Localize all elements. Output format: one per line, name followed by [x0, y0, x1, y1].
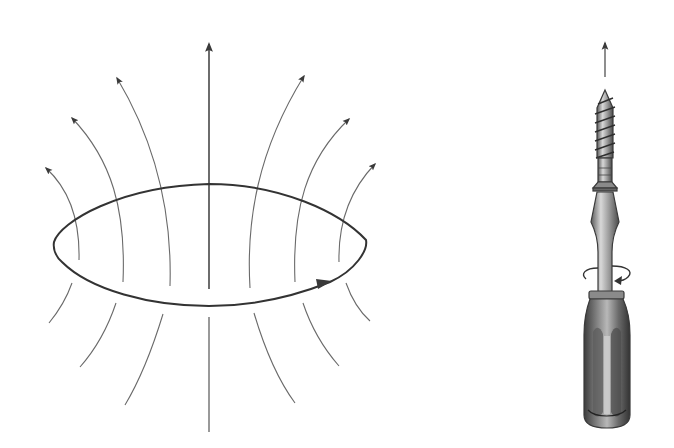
- field-line-bottom-right-2: [303, 303, 339, 366]
- field-line-bottom-left-1: [125, 314, 163, 405]
- field-line-bottom-right-1: [254, 313, 295, 403]
- field-line-bottom-left-3: [49, 283, 72, 323]
- field-line-right-3: [339, 164, 375, 262]
- screwdriver-blade: [591, 192, 619, 296]
- current-arrow-icon: [316, 279, 332, 289]
- current-loop-diagram: [46, 44, 375, 432]
- field-line-bottom-right-3: [346, 283, 370, 321]
- screwdriver-icon: [583, 43, 630, 428]
- field-lines-upper: [46, 44, 375, 289]
- screwdriver-handle: [584, 291, 630, 428]
- diagram-canvas: [0, 0, 674, 448]
- screw-icon: [593, 90, 617, 191]
- field-line-left-1: [117, 78, 170, 286]
- field-line-right-1: [249, 76, 304, 288]
- field-line-left-3: [46, 168, 79, 260]
- field-line-bottom-left-2: [80, 303, 116, 367]
